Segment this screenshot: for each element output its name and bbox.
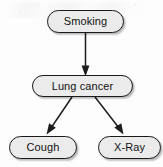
edge-lung-cancer-to-cough [47,97,73,135]
node-xray-label: X-Ray [114,142,145,153]
node-xray[interactable]: X-Ray [98,136,161,159]
node-smoking-label: Smoking [64,16,108,27]
node-cough-label: Cough [27,142,60,153]
edge-lung-cancer-to-xray [95,97,124,135]
node-smoking[interactable]: Smoking [47,10,124,33]
node-lung-cancer[interactable]: Lung cancer [32,75,133,97]
edge-smoking-to-lung-cancer [82,33,90,77]
diagram-canvas: Smoking Lung cancer Cough X-Ray [0,0,163,167]
node-lung-cancer-label: Lung cancer [52,81,114,92]
node-cough[interactable]: Cough [9,136,77,159]
